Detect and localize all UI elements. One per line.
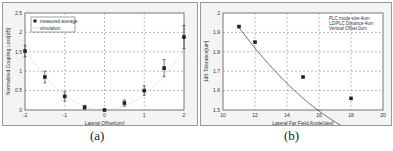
data-point	[103, 108, 107, 112]
y-tick-label: 1.6	[213, 87, 220, 93]
x-tick-label: 20	[380, 112, 386, 118]
x-tick-label: 1	[143, 112, 146, 118]
x-axis-label: Lateral Offset[um]	[85, 120, 125, 125]
data-point	[253, 40, 257, 44]
y-tick-label: 0.5	[15, 87, 22, 93]
caption-b: (b)	[284, 128, 299, 144]
x-axis-label: Lateral Far Field Angle[deg]	[272, 120, 334, 125]
data-point	[237, 25, 241, 29]
x-tick-label: 14	[284, 112, 290, 118]
legend-marker-icon	[34, 20, 37, 23]
x-tick-label: 10	[220, 112, 226, 118]
legend-entry: simulation	[40, 26, 61, 31]
y-tick-label: 2.5	[15, 10, 22, 16]
y-tick-label: 1.9	[213, 29, 220, 35]
x-tick-label: 12	[252, 112, 258, 118]
y-tick-label: 1.8	[213, 49, 220, 55]
y-tick-label: 1	[19, 68, 22, 74]
y-tick-label: 1.5	[15, 49, 22, 55]
legend-entry: measured average	[40, 19, 78, 24]
legend: measured averagesimulation	[31, 17, 78, 32]
data-point	[83, 105, 87, 109]
y-tick-label: 2	[19, 29, 22, 35]
y-tick-label: 2	[217, 10, 220, 16]
x-tick-label: 18	[348, 112, 354, 118]
y-axis-label: Normalized Coupling Loss[dB]	[5, 27, 11, 95]
tolerance-chart: 1012141618201.51.61.71.81.92Lateral Far …	[201, 3, 391, 125]
y-tick-label: 1.7	[213, 68, 220, 74]
x-tick-label: -1	[63, 112, 68, 118]
coupling-loss-chart: -2-101200.511.522.5Lateral Offset[um]Nor…	[3, 3, 197, 125]
x-tick-label: 2	[183, 112, 186, 118]
caption-a: (a)	[90, 128, 104, 144]
y-axis-label: 1dB Tolerance[um]	[203, 40, 209, 82]
x-tick-label: -2	[23, 112, 28, 118]
x-tick-label: 0	[103, 112, 106, 118]
annotation-line: Vertical Offset:0um	[329, 26, 367, 31]
y-tick-label: 1.5	[213, 107, 220, 113]
chart-panel-a: -2-101200.511.522.5Lateral Offset[um]Nor…	[2, 2, 198, 126]
y-tick-label: 0	[19, 107, 22, 113]
data-point	[349, 97, 353, 101]
chart-panel-b: 1012141618201.51.61.71.81.92Lateral Far …	[200, 2, 392, 126]
data-point	[301, 75, 305, 79]
